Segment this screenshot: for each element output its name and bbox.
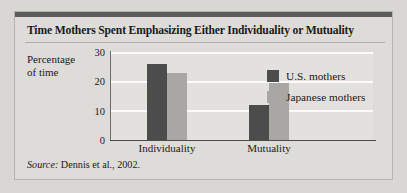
- legend-swatch-japanese-icon: [267, 91, 279, 103]
- legend-label-japanese: Japanese mothers: [286, 91, 365, 103]
- x-tick-mutuality: Mutuality: [247, 142, 290, 154]
- header-rule: [15, 12, 392, 17]
- legend: U.S. mothers Japanese mothers: [267, 65, 387, 107]
- bar-mutuality-us: [249, 105, 269, 140]
- y-tick-30: 30: [83, 47, 105, 58]
- y-axis-line: [110, 51, 111, 141]
- legend-label-us: U.S. mothers: [286, 70, 345, 82]
- legend-swatch-us-icon: [267, 70, 279, 82]
- x-axis-line: [110, 140, 376, 141]
- gridline-30: [111, 52, 373, 54]
- chart-region: Percentage of time 30 20 10 0 Individual…: [15, 45, 394, 155]
- bar-individuality-us: [147, 64, 167, 140]
- x-tick-individuality: Individuality: [139, 142, 196, 154]
- title-divider: [25, 42, 385, 43]
- legend-item-japanese: Japanese mothers: [267, 86, 387, 107]
- y-tick-20: 20: [83, 76, 105, 87]
- figure-panel: Time Mothers Spent Emphasizing Either In…: [14, 11, 393, 180]
- y-tick-10: 10: [83, 105, 105, 116]
- source-note: Source: Dennis et al., 2002.: [27, 159, 140, 170]
- y-axis-tick-labels: 30 20 10 0: [81, 52, 105, 140]
- bar-individuality-japanese: [167, 73, 187, 140]
- source-citation: Dennis et al., 2002.: [61, 159, 140, 170]
- legend-item-us: U.S. mothers: [267, 65, 387, 86]
- page-title: Time Mothers Spent Emphasizing Either In…: [27, 24, 383, 37]
- source-label: Source:: [27, 159, 58, 170]
- y-tick-0: 0: [83, 135, 105, 146]
